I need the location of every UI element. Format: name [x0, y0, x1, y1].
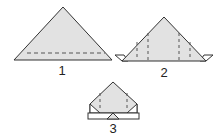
fold-diagram — [0, 0, 223, 137]
step-1-label: 1 — [58, 64, 65, 77]
step-2-label: 2 — [160, 66, 167, 79]
step-3-label: 3 — [109, 122, 116, 135]
step-1-triangle — [14, 7, 112, 60]
step-2-triangle — [115, 17, 213, 61]
step-3-shape — [88, 82, 139, 119]
